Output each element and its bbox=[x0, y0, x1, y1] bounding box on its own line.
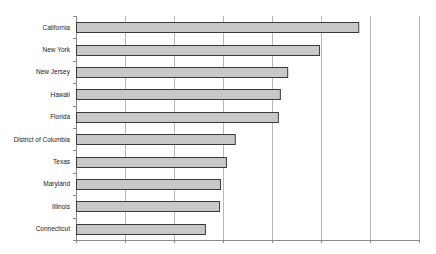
category-label: New Jersey bbox=[36, 68, 71, 76]
bar-maryland bbox=[77, 180, 221, 190]
bar-hawaii bbox=[77, 90, 281, 100]
bar-illinois bbox=[77, 202, 220, 212]
category-label: New York bbox=[43, 46, 71, 53]
bar-florida bbox=[77, 113, 279, 123]
category-label: Connecticut bbox=[36, 225, 71, 232]
bar-chart: CaliforniaNew YorkNew JerseyHawaiiFlorid… bbox=[0, 0, 436, 254]
bar-district-of-columbia bbox=[77, 135, 236, 145]
category-labels: CaliforniaNew YorkNew JerseyHawaiiFlorid… bbox=[14, 24, 71, 233]
bar-new-jersey bbox=[77, 68, 288, 78]
bar-texas bbox=[77, 158, 227, 168]
category-label: Illinois bbox=[52, 203, 71, 210]
category-label: District of Columbia bbox=[14, 136, 71, 143]
bar-new-york bbox=[77, 46, 320, 56]
bars bbox=[77, 23, 359, 235]
category-label: Maryland bbox=[43, 180, 70, 188]
bar-connecticut bbox=[77, 225, 206, 235]
bar-california bbox=[77, 23, 359, 33]
category-label: California bbox=[43, 24, 71, 31]
category-label: Texas bbox=[53, 158, 71, 165]
category-label: Florida bbox=[50, 113, 70, 120]
category-label: Hawaii bbox=[50, 91, 70, 98]
